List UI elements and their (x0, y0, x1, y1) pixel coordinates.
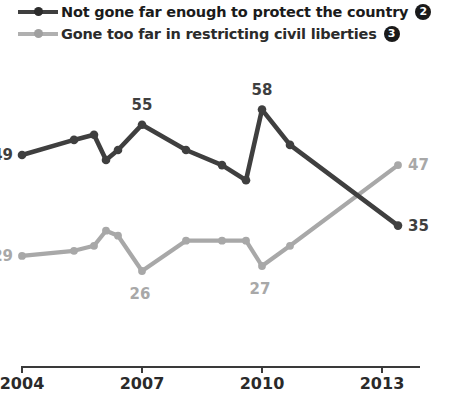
data-point[interactable] (90, 242, 98, 250)
data-label-dark-55: 55 (132, 98, 153, 113)
data-point[interactable] (286, 242, 294, 250)
data-point[interactable] (138, 120, 147, 129)
data-point[interactable] (218, 237, 226, 245)
x-axis (21, 367, 420, 373)
data-point[interactable] (70, 247, 78, 255)
series-line-not-gone-far-enough (18, 105, 403, 230)
x-tick-label-2013: 2013 (360, 376, 405, 392)
chart-plot-area: 49 55 58 35 29 26 27 47 (0, 0, 459, 399)
x-tick-label-2007: 2007 (120, 376, 165, 392)
data-point[interactable] (18, 151, 27, 160)
data-point[interactable] (258, 262, 266, 270)
data-point[interactable] (182, 146, 191, 155)
data-label-dark-35: 35 (408, 219, 429, 234)
data-label-grey-26: 26 (130, 287, 151, 302)
x-axis-tick-labels: 2004 2007 2010 2013 (0, 376, 459, 399)
data-label-grey-29: 29 (0, 249, 13, 264)
data-point[interactable] (218, 161, 227, 170)
data-label-dark-49: 49 (0, 148, 13, 163)
data-point[interactable] (102, 156, 111, 165)
data-point[interactable] (242, 176, 251, 185)
x-tick-label-2004: 2004 (0, 376, 44, 392)
data-point[interactable] (258, 105, 267, 114)
series-line-gone-too-far (18, 161, 402, 275)
chart-svg (0, 0, 459, 399)
data-point[interactable] (286, 141, 295, 150)
data-point[interactable] (18, 252, 26, 260)
data-point[interactable] (90, 131, 99, 140)
data-point[interactable] (182, 237, 190, 245)
data-label-dark-58: 58 (252, 83, 273, 98)
data-point[interactable] (138, 267, 146, 275)
data-point[interactable] (114, 146, 123, 155)
data-point[interactable] (242, 237, 250, 245)
data-point[interactable] (114, 232, 122, 240)
data-point[interactable] (394, 161, 402, 169)
chart-figure: Not gone far enough to protect the count… (0, 0, 459, 399)
data-label-grey-47: 47 (408, 158, 429, 173)
data-label-grey-27: 27 (250, 282, 271, 297)
data-point[interactable] (102, 227, 110, 235)
data-point[interactable] (394, 221, 403, 230)
x-tick-label-2010: 2010 (240, 376, 285, 392)
data-point[interactable] (70, 136, 79, 145)
